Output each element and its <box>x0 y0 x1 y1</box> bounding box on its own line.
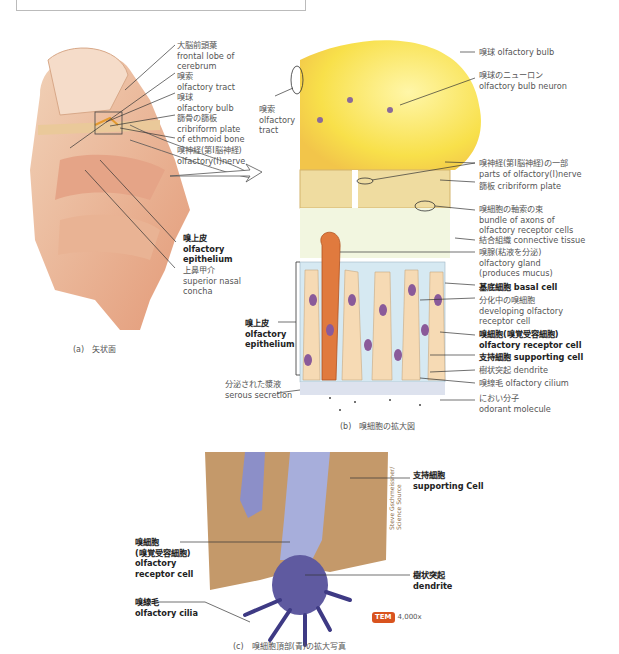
label-basal-cell: 基底細胞 basal cell <box>479 282 557 293</box>
label-developing-receptor-cell: 分化中の嗅細胞developing olfactory receptor cel… <box>479 295 563 327</box>
label-odorant-molecule: におい分子odorant molecule <box>479 393 551 414</box>
label-olfactory-cilium: 嗅線毛 olfactory cilium <box>479 378 569 389</box>
tem-badge: TEM <box>372 612 395 623</box>
label-olfactory-nerve: 嗅神経(第Ⅰ脳神経)olfactory(Ⅰ)nerve <box>177 145 245 166</box>
label-olfactory-epithelium-b: 嗅上皮olfactory epithelium <box>245 318 295 350</box>
label-olfactory-cilia: 嗅線毛olfactory cilia <box>135 597 198 618</box>
label-parts-of-olfactory-nerve: 嗅神経(第Ⅰ脳神経)の一部parts of olfactory(Ⅰ)nerve <box>479 158 582 179</box>
photo-credit: Steve Gschmeissner/ Science Source <box>388 467 402 530</box>
olfactory-detail-illustration <box>291 40 481 411</box>
magnification-label: TEM4,000x <box>372 612 422 623</box>
label-dendrite-c: 樹状突起dendrite <box>413 570 452 591</box>
label-connective-tissue: 結合組織 connective tissue <box>479 235 585 246</box>
label-superior-nasal-concha: 上鼻甲介superior nasal concha <box>183 265 241 297</box>
caption-panel-c: (c) 嗅細胞頂部(青)の拡大写真 <box>233 640 346 651</box>
label-olfactory-epithelium-a: 嗅上皮olfactory epithelium <box>183 233 233 265</box>
tem-micrograph <box>205 452 388 645</box>
label-olfactory-tract-b: 嗅索olfactory tract <box>259 104 295 136</box>
label-cribriform-plate: 篩骨の篩板cribriform plate of ethmoid bone <box>177 113 244 145</box>
label-dendrite-b: 樹状突起 dendrite <box>479 365 548 376</box>
label-olfactory-bulb: 嗅球olfactory bulb <box>177 92 234 113</box>
label-frontal-lobe: 大脳前頭葉frontal lobe of cerebrum <box>177 40 234 72</box>
label-olfactory-gland: 嗅腺(粘液を分泌)olfactory gland (produces mucus… <box>479 247 553 279</box>
label-supporting-cell-c: 支持細胞supporting Cell <box>413 470 484 491</box>
caption-panel-a: (a) 矢状面 <box>73 343 116 354</box>
diagram-illustrations <box>0 0 619 654</box>
label-olfactory-bulb-neuron: 嗅球のニューロンolfactory bulb neuron <box>479 70 567 91</box>
label-olfactory-receptor-cell-c: 嗅細胞 (嗅覚受容細胞)olfactory receptor cell <box>135 537 193 579</box>
label-axon-bundle: 嗅細胞の軸索の束bundle of axons of olfactory rec… <box>479 204 573 236</box>
label-olfactory-receptor-cell: 嗅細胞(嗅覚受容細胞)olfactory receptor cell <box>479 329 581 350</box>
caption-panel-b: (b) 嗅細胞の拡大図 <box>340 420 415 431</box>
label-cribriform-plate-b: 篩板 cribriform plate <box>479 181 561 192</box>
label-olfactory-tract: 嗅索olfactory tract <box>177 71 235 92</box>
label-olfactory-bulb-b: 嗅球 olfactory bulb <box>479 47 554 58</box>
label-serous-secretion: 分泌された漿液serous secretion <box>225 379 292 400</box>
label-supporting-cell: 支持細胞 supporting cell <box>479 352 583 363</box>
